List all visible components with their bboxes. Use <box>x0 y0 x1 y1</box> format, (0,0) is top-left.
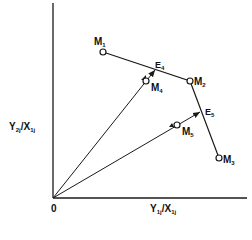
point-m5 <box>174 122 180 128</box>
label-m2: M2 <box>194 77 206 90</box>
x-axis-label: Y1j/X1j <box>150 204 176 217</box>
arrowhead-m5-icon <box>169 123 174 127</box>
label-m5: M5 <box>182 127 194 140</box>
point-m2 <box>187 78 193 84</box>
label-m4: M4 <box>151 83 163 96</box>
label-m3: M3 <box>223 155 235 168</box>
point-m3 <box>216 155 222 161</box>
label-e4: E4 <box>155 60 164 73</box>
ray-to-e4 <box>53 70 155 198</box>
point-m4 <box>143 78 149 84</box>
origin-label: 0 <box>51 204 57 214</box>
label-e5: E5 <box>205 107 214 120</box>
y-axis-label: Y2j/X1j <box>9 122 35 135</box>
label-m1: M1 <box>94 37 106 50</box>
